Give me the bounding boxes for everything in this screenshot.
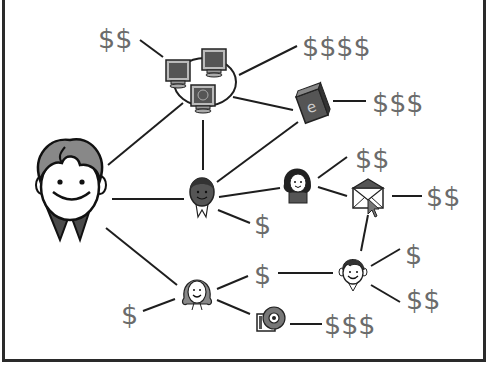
value-small-boy-bottom: $$: [406, 284, 440, 315]
value-computers-left: $$: [98, 23, 132, 54]
value-girl: $$: [355, 143, 389, 174]
value-blonde-woman: $: [121, 299, 138, 330]
edge-blonde-cd: [217, 300, 250, 314]
edge-computers-dollar2: [140, 40, 163, 57]
edge-smallboy-dollar1: [371, 249, 400, 266]
edge-girl-envelope: [318, 187, 347, 196]
edge-book-darkgirl: [217, 122, 298, 182]
blonde-woman-icon: [183, 280, 212, 310]
value-cd: $$$: [324, 309, 376, 340]
main-person-icon: [36, 139, 106, 240]
ebook-icon: e: [294, 83, 332, 124]
value-middle: $: [254, 259, 271, 290]
edge-blonde-dollar1-left: [143, 299, 175, 311]
edge-darkgirl-girl: [219, 188, 280, 197]
value-computers-right: $$$$: [302, 31, 371, 62]
edge-envelope-smallboy: [361, 215, 368, 251]
value-small-boy-top: $: [405, 239, 422, 270]
edge-main-blonde: [106, 228, 177, 285]
value-ebook: $$$: [372, 87, 424, 118]
edge-main-computers: [108, 103, 183, 165]
network-diagram: e: [0, 0, 497, 370]
edge-smallboy-dollar2: [371, 285, 400, 302]
dark-girl-icon: [190, 178, 214, 217]
edge-computers-book: [233, 97, 293, 110]
edge-girl-dollar2: [318, 157, 347, 178]
edge-computers-dollar4: [239, 46, 297, 75]
value-labels: $$ $$$$ $$$ $$ $$ $ $ $ $$ $ $$$: [98, 23, 460, 340]
girl-icon: [284, 169, 311, 204]
envelope-icon: [353, 179, 383, 217]
value-dark-girl: $: [254, 209, 271, 240]
edge-darkgirl-dollar1: [218, 210, 250, 223]
edge-blonde-dollar1-mid: [217, 276, 248, 289]
cd-icon: [257, 307, 285, 331]
small-boy-icon: [339, 259, 367, 291]
value-envelope: $$: [426, 181, 460, 212]
